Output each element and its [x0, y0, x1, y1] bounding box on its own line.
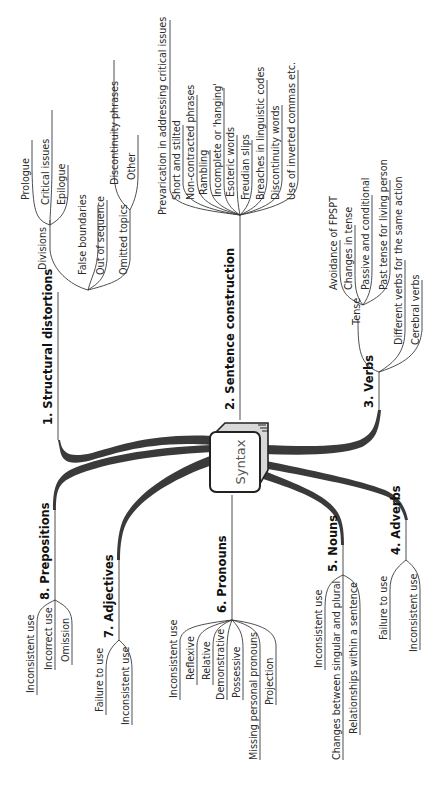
node-tense: Tense [351, 298, 362, 326]
branch-2-label: 2. Sentence construction [223, 248, 237, 410]
prepositions-subtree: Inconsistent use Incorrect use Omission [25, 600, 72, 695]
branch-1-label: 1. Structural distortions [41, 268, 55, 425]
node-changes-in-tense: Changes in tense [343, 207, 354, 290]
node-adverbs-failure-to-use: Failure to use [378, 576, 389, 640]
node-false-boundaries: False boundaries [77, 194, 88, 275]
node-prepositions-inconsistent-use: Inconsistent use [25, 615, 36, 693]
node-nouns-inconsistent-use: Inconsistent use [313, 590, 324, 668]
node-cerebral-verbs: Cerebral verbs [410, 275, 421, 345]
branch-4-label: 4. Adverbs [389, 485, 403, 555]
node-prevarication: Prevarication in addressing critical iss… [157, 17, 168, 215]
node-critical-issues: Critical issues [40, 139, 51, 205]
node-freudian-slips: Freudian slips [240, 134, 251, 200]
node-pronouns-possessive: Possessive [231, 646, 242, 698]
node-esoteric-words: Esoteric words [225, 127, 236, 197]
node-pronouns-relative: Relative [201, 641, 212, 680]
node-avoidance-fpspt: Avoidance of FPSPT [328, 196, 339, 290]
branch-7-label: 7. Adjectives [102, 554, 116, 638]
sentence-construction-subtree: Prevarication in addressing critical iss… [157, 17, 298, 215]
branch-6-label: 6. Pronouns [215, 535, 229, 613]
node-adjectives-inconsistent-use: Inconsistent use [120, 647, 131, 725]
pronouns-subtree: Inconsistent use Reflexive Relative Demo… [168, 620, 276, 760]
branch-3-label: 3. Verbs [362, 355, 376, 408]
branch-8-label: 8. Prepositions [38, 502, 52, 600]
node-breaches-linguistic-codes: Breaches in linguistic codes [255, 67, 266, 200]
node-short-and-stilted: Short and stilted [171, 120, 182, 200]
node-prepositions-incorrect-use: Incorrect use [43, 607, 54, 670]
central-node-label: Syntax [233, 439, 248, 484]
node-prepositions-omission: Omission [60, 618, 71, 662]
mind-map: Syntax 1. Structural distortions 2. Sent… [0, 0, 445, 789]
node-discontinuity-phrases: Discontinuity phrases [109, 81, 120, 185]
nouns-subtree: Inconsistent use Changes between singula… [313, 575, 360, 760]
node-nouns-relationships: Relationships within a sentence [348, 582, 359, 734]
node-passive-conditional: Passive and conditional [360, 177, 371, 290]
structural-distortions-subtree: Divisions Prologue Critical issues Epilo… [20, 60, 138, 290]
node-divisions: Divisions [37, 227, 48, 270]
node-non-contracted-phrases: Non-contracted phrases [185, 85, 196, 200]
node-pronouns-inconsistent-use: Inconsistent use [168, 620, 179, 698]
node-omitted-topics: Omitted topics [118, 204, 129, 275]
node-pronouns-projection: Projection [264, 658, 275, 705]
node-other: Other [126, 153, 137, 180]
node-adverbs-inconsistent-use: Inconsistent use [408, 574, 419, 652]
branch-5-label: 5. Nouns [326, 515, 340, 572]
node-epilogue: Epilogue [56, 163, 67, 205]
node-adjectives-failure-to-use: Failure to use [94, 648, 105, 712]
adjectives-subtree: Failure to use Inconsistent use [94, 640, 132, 725]
node-incomplete-hanging: Incomplete or 'hanging' [212, 83, 223, 197]
node-discontinuity-words: Discontinuity words [270, 105, 281, 200]
node-pronouns-reflexive: Reflexive [185, 636, 196, 680]
verbs-subtree: Tense Avoidance of FPSPT Changes in tens… [328, 159, 422, 372]
node-out-of-sequence: Out of sequence [95, 196, 106, 275]
node-rambling: Rambling [198, 150, 209, 195]
adverbs-subtree: Failure to use Inconsistent use [378, 560, 420, 652]
node-different-verbs: Different verbs for the same action [393, 177, 404, 346]
node-past-tense-living-person: Past tense for living person [378, 159, 389, 290]
node-pronouns-demonstrative: Demonstrative [215, 629, 226, 700]
node-prologue: Prologue [20, 158, 31, 200]
central-node[interactable]: Syntax [210, 423, 268, 492]
node-inverted-commas: Use of inverted commas etc. [286, 62, 297, 200]
node-pronouns-missing-personal: Missing personal pronouns [248, 632, 259, 760]
node-nouns-singular-plural: Changes between singular and plural [331, 581, 342, 760]
